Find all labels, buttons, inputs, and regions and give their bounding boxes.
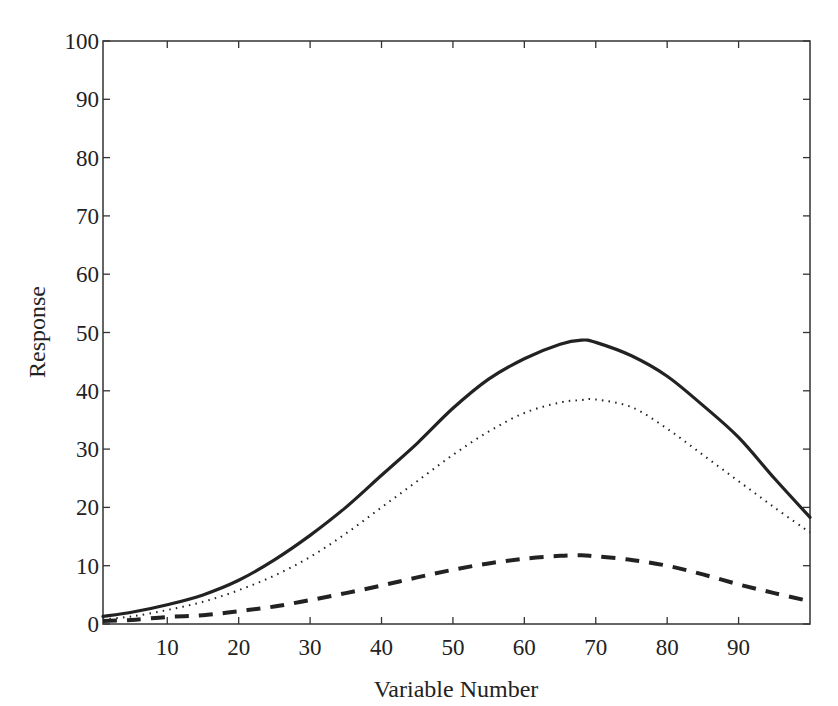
y-tick-label: 40 <box>76 379 99 404</box>
y-tick-label: 20 <box>76 495 99 520</box>
y-tick-label: 60 <box>76 262 99 287</box>
y-tick-label: 50 <box>76 321 99 346</box>
x-axis-ticks: 102030405060708090 <box>156 41 750 660</box>
x-tick-label: 90 <box>727 635 750 660</box>
y-tick-label: 30 <box>76 437 99 462</box>
x-tick-label: 20 <box>227 635 250 660</box>
series-line-dashed <box>103 555 810 621</box>
x-axis-label: Variable Number <box>374 676 539 702</box>
y-axis-ticks: 0102030405060708090100 <box>65 29 811 637</box>
x-tick-label: 50 <box>441 635 464 660</box>
line-chart: 0102030405060708090100 10203040506070809… <box>0 0 838 706</box>
y-tick-label: 10 <box>76 554 99 579</box>
series-layer <box>103 340 810 621</box>
series-line-dotted <box>103 399 810 619</box>
x-tick-label: 80 <box>656 635 679 660</box>
x-tick-label: 30 <box>299 635 322 660</box>
x-tick-label: 40 <box>370 635 393 660</box>
y-tick-label: 0 <box>88 612 100 637</box>
x-tick-label: 70 <box>584 635 607 660</box>
y-tick-label: 70 <box>76 204 99 229</box>
plot-frame <box>103 41 810 624</box>
y-tick-label: 100 <box>65 29 100 54</box>
x-tick-label: 10 <box>156 635 179 660</box>
y-axis-label: Response <box>24 286 50 378</box>
y-tick-label: 90 <box>76 87 99 112</box>
y-tick-label: 80 <box>76 146 99 171</box>
x-tick-label: 60 <box>513 635 536 660</box>
